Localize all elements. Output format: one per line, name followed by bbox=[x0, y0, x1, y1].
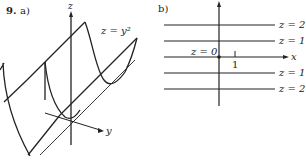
level-label-z1-bottom: z = 1 bbox=[279, 68, 305, 78]
figure-canvas bbox=[0, 0, 306, 160]
z-axis-arrow-icon bbox=[69, 11, 73, 17]
problem-number: 9. bbox=[6, 6, 16, 16]
mid-parabola bbox=[45, 62, 80, 118]
ridge-back bbox=[27, 22, 85, 80]
trough-line bbox=[40, 60, 135, 155]
origin-dot bbox=[217, 55, 221, 59]
origin-level-label: z = 0 bbox=[191, 47, 217, 57]
tick-label-1: 1 bbox=[232, 60, 238, 70]
a-z-axis-label: z bbox=[68, 2, 73, 11]
b-x-axis-label: x bbox=[291, 52, 297, 62]
ridge-front bbox=[4, 80, 27, 102]
y-axis-arrow-icon bbox=[98, 128, 104, 133]
level-label-z2-top: z = 2 bbox=[279, 20, 305, 30]
ridge-right-lower bbox=[28, 115, 60, 155]
front-parabola bbox=[0, 63, 30, 156]
part-b-diagram bbox=[164, 1, 289, 106]
b-vertical-arrow-icon bbox=[217, 1, 221, 7]
level-label-z2-bottom: z = 2 bbox=[279, 84, 305, 94]
part-a-label: a) bbox=[20, 6, 30, 16]
surface-equation: z = y² bbox=[101, 26, 131, 36]
b-x-axis-arrow-icon bbox=[283, 55, 289, 59]
level-label-z1-top: z = 1 bbox=[279, 36, 305, 46]
part-b-label: b) bbox=[158, 4, 168, 14]
y-axis bbox=[45, 113, 100, 130]
a-y-axis-label: y bbox=[106, 126, 112, 136]
